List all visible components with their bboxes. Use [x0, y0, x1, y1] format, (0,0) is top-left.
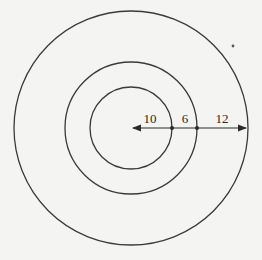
middle-intersection-dot: [195, 126, 199, 130]
segment-label-inner: 10: [144, 111, 157, 126]
inner-intersection-dot: [170, 126, 174, 130]
stray-dot: [232, 45, 235, 48]
segment-label-middle: 6: [182, 111, 189, 126]
segment-label-outer: 12: [216, 111, 229, 126]
concentric-circles-diagram: 10 6 12: [0, 0, 262, 260]
